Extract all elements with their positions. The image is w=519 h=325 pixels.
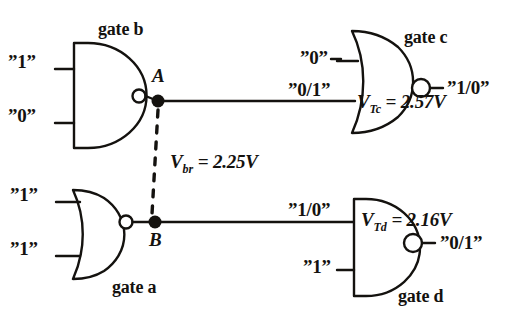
gate-c-input-1-label: ”0” <box>300 48 328 67</box>
bridge-voltage-subscript: br <box>182 162 193 176</box>
gate-b-input-1-label: ”1” <box>8 52 36 71</box>
gate-a-input-2-label: ”1” <box>10 239 38 258</box>
node-a-label: A <box>152 66 164 85</box>
gate-c-input-2-label: ”0/1” <box>288 80 330 99</box>
bridging-fault-dashed-line <box>152 110 158 214</box>
gate-d-threshold-equation: = 2.16V <box>391 209 451 230</box>
gate-d-threshold-label: VTd = 2.16V <box>361 210 452 233</box>
circuit-diagram: gate b ”1” ”0” A gate a ”1” ”1” B Vbr = … <box>0 0 519 325</box>
gate-d-threshold-symbol: V <box>361 209 373 230</box>
gate-c-threshold-subscript: Tc <box>369 102 381 116</box>
gate-c-name: gate c <box>404 28 447 46</box>
gate-b-name: gate b <box>98 20 143 38</box>
gate-a-body <box>73 190 124 279</box>
gate-d-input-2-label: ”1” <box>303 257 331 276</box>
gate-d-threshold-subscript: Td <box>373 220 386 234</box>
gate-d-input-1-label: ”1/0” <box>288 200 330 219</box>
gate-c-threshold-label: VTc = 2.57V <box>357 92 446 115</box>
gate-d-output-label: ”0/1” <box>440 233 482 252</box>
bridge-voltage-symbol: V <box>170 151 182 172</box>
gate-d-name: gate d <box>398 287 443 305</box>
gate-c-threshold-equation: = 2.57V <box>386 91 446 112</box>
node-b-label: B <box>149 230 161 249</box>
gate-a-name: gate a <box>112 278 156 296</box>
circuit-wiring-layer <box>0 0 519 325</box>
bridge-voltage-equation: = 2.25V <box>198 151 258 172</box>
gate-b-output-bubble <box>133 90 146 103</box>
gate-c-threshold-symbol: V <box>357 91 369 112</box>
gate-b-input-2-label: ”0” <box>8 106 36 125</box>
gate-c-output-label: ”1/0” <box>447 78 489 97</box>
gate-d-output-bubble <box>404 234 422 252</box>
gate-a-output-bubble <box>120 216 133 229</box>
gate-a-input-1-label: ”1” <box>10 185 38 204</box>
bridge-voltage-label: Vbr = 2.25V <box>170 152 258 175</box>
